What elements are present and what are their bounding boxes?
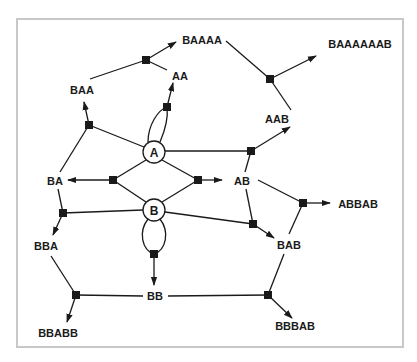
junction-square-icon: [142, 56, 150, 64]
label-AA: AA: [172, 70, 188, 82]
junction-square-icon: [194, 176, 202, 184]
junction-square-icon: [249, 220, 257, 228]
label-ABBAB: ABBAB: [338, 198, 378, 210]
junction-square-icon: [163, 103, 171, 111]
label-BBABB: BBABB: [38, 327, 78, 339]
junction-square-icon: [59, 209, 67, 217]
string-rewrite-diagram: A B BAAAA BAAAAAAB AA BAA AAB BA AB ABBA…: [0, 0, 417, 362]
circle-node-B: B: [143, 199, 165, 221]
node-labels: BAAAA BAAAAAAB AA BAA AAB BA AB ABBAB BB…: [34, 34, 392, 339]
label-BAA: BAA: [70, 84, 94, 96]
junction-square-icon: [109, 176, 117, 184]
label-BAAAA: BAAAA: [182, 34, 222, 46]
junction-square-icon: [247, 147, 255, 155]
label-BBA: BBA: [34, 240, 58, 252]
circle-label-B: B: [150, 204, 159, 218]
junction-square-icon: [85, 121, 93, 129]
label-BA: BA: [47, 175, 63, 187]
label-BAB: BAB: [277, 239, 301, 251]
junction-square-icon: [266, 75, 274, 83]
circle-label-A: A: [150, 146, 159, 160]
junction-square-icon: [264, 291, 272, 299]
label-BBBAB: BBBAB: [275, 320, 315, 332]
label-AB: AB: [234, 175, 250, 187]
label-BAAAAAAB: BAAAAAAB: [328, 38, 392, 50]
junction-nodes: [59, 56, 307, 299]
junction-square-icon: [72, 291, 80, 299]
junction-square-icon: [299, 199, 307, 207]
junction-square-icon: [150, 250, 158, 258]
label-AAB: AAB: [265, 113, 289, 125]
label-BB: BB: [147, 290, 163, 302]
circle-node-A: A: [143, 141, 165, 163]
